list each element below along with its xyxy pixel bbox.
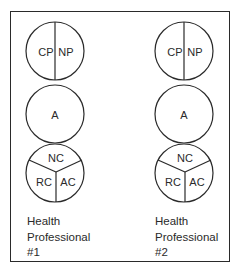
caption-line-3: #2 — [155, 245, 218, 261]
bottom-circle-right-label: AC — [60, 176, 75, 188]
caption-line-1: Health — [155, 214, 218, 230]
bottom-circle-left-label: RC — [165, 176, 181, 188]
top-circle-right-label: NP — [187, 46, 202, 58]
caption-line-2: Professional — [155, 230, 218, 246]
bottom-circle-top-label: NC — [48, 152, 64, 164]
caption-health-professional-1: Health Professional #1 — [27, 214, 90, 261]
health-professional-2-stack: CP NP A NC RC AC — [155, 22, 213, 202]
bottom-circle-1: NC RC AC — [26, 144, 84, 202]
bottom-circle-top-label: NC — [177, 152, 193, 164]
caption-line-3: #1 — [27, 245, 90, 261]
middle-circle-label: A — [180, 109, 188, 121]
caption-health-professional-2: Health Professional #2 — [155, 214, 218, 261]
top-circle-left-label: CP — [167, 46, 182, 58]
health-professional-1-stack: CP NP A NC RC AC — [26, 22, 84, 202]
bottom-circle-right-label: AC — [189, 176, 204, 188]
top-circle-left-label: CP — [38, 46, 53, 58]
middle-circle-label: A — [51, 109, 59, 121]
bottom-circle-left-label: RC — [36, 176, 52, 188]
caption-line-2: Professional — [27, 230, 90, 246]
top-circle-2: CP NP — [155, 22, 213, 80]
top-circle-1: CP NP — [26, 22, 84, 80]
middle-circle-1: A — [26, 85, 84, 143]
middle-circle-2: A — [155, 85, 213, 143]
bottom-circle-2: NC RC AC — [155, 144, 213, 202]
top-circle-right-label: NP — [58, 46, 73, 58]
caption-line-1: Health — [27, 214, 90, 230]
